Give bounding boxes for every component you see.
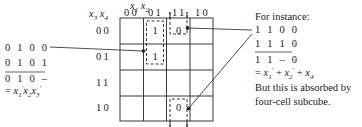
row-variables-label: x3 x4	[89, 8, 108, 20]
right-heading: For instance:	[255, 11, 310, 23]
var-sub: 3	[94, 14, 98, 22]
literal-x4: x4	[305, 67, 313, 78]
right-combined: 1 1 – 0	[255, 54, 299, 66]
col-header-11: 11	[172, 7, 187, 19]
equals-sign: =	[255, 67, 264, 78]
right-expression: = x1′ + x2′ + x4	[255, 67, 313, 79]
right-maxterm-2: 1 1 1 0	[255, 38, 299, 50]
literal-x1-prime: x1′	[264, 67, 274, 78]
var-sub: 1	[18, 91, 22, 99]
equals-sign: =	[5, 85, 14, 96]
left-minterm-1: 0 1 0 0	[5, 42, 49, 54]
col-header-00: 00	[124, 7, 139, 19]
row-header-00: 00	[96, 25, 111, 37]
right-arrow-head-bottom	[187, 107, 190, 110]
col-header-01: 01	[148, 7, 163, 19]
var-sub: 1	[268, 73, 272, 81]
cell-00-11: 0	[172, 25, 186, 37]
cell-01-01: 1	[148, 51, 162, 63]
col-header-10: 10	[195, 7, 210, 19]
right-arrow-head-top	[186, 27, 189, 30]
right-arrow-line-bottom	[189, 34, 252, 108]
var-sub: 4	[104, 14, 108, 22]
var-sub: 2	[289, 73, 293, 81]
kmap-grid	[120, 18, 213, 121]
plus-sign: +	[273, 67, 284, 78]
literal-x2-prime: x2′	[284, 67, 294, 78]
left-combined: 0 1 0 –	[5, 73, 49, 85]
prime: ′	[40, 84, 42, 92]
left-arrow-head	[142, 50, 145, 53]
var-sub: 4	[310, 73, 314, 81]
plus-sign: +	[294, 67, 305, 78]
absorbed-comment-line2: four-cell subcube.	[255, 96, 331, 108]
right-maxterm-1: 1 1 0 0	[255, 24, 299, 36]
row-header-01: 01	[96, 51, 111, 63]
absorbed-comment-line1: But this is absorbed by	[255, 82, 351, 94]
row-header-11: 11	[96, 77, 111, 89]
right-arrow-line-top	[188, 28, 252, 30]
cell-00-01: 1	[148, 25, 162, 37]
left-expression: = x1′x2x3′	[5, 85, 41, 97]
row-header-10: 10	[96, 102, 111, 114]
literal-x3-prime: x3′	[31, 85, 41, 96]
literal-x1-prime: x1′	[14, 85, 24, 96]
var-sub: 3	[36, 91, 40, 99]
left-minterm-2: 0 1 0 1	[5, 57, 49, 69]
cell-10-11: 0	[172, 102, 186, 114]
